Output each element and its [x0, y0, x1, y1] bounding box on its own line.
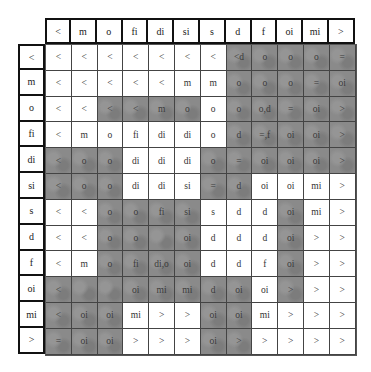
- table-cell: >: [304, 303, 330, 329]
- table-cell: oi: [304, 122, 330, 148]
- table-cell: oi: [278, 251, 304, 277]
- column-header-row: <mofidisisdfoimi>: [45, 18, 355, 44]
- table-cell: m: [72, 122, 98, 148]
- table-cell: mi: [252, 303, 278, 329]
- table-cell: o: [227, 71, 253, 97]
- table-cell: <: [46, 251, 72, 277]
- table-cell: >: [330, 329, 356, 355]
- row-header: o: [18, 96, 45, 122]
- table-cell: si: [175, 174, 201, 200]
- table-cell: =: [46, 329, 72, 355]
- row-header: f: [18, 251, 45, 277]
- table-cell: o,d: [252, 97, 278, 123]
- table-cell: <: [46, 174, 72, 200]
- table-cell: o: [98, 122, 124, 148]
- table-cell: o: [201, 97, 227, 123]
- table-cell: >: [149, 303, 175, 329]
- column-header: s: [200, 18, 226, 44]
- table-cell: fi: [123, 251, 149, 277]
- table-cell: o: [98, 226, 124, 252]
- table-cell: o: [98, 174, 124, 200]
- column-header: >: [329, 18, 355, 44]
- table-cell: =: [227, 148, 253, 174]
- table-cell: =,f: [252, 122, 278, 148]
- table-cell: <: [46, 200, 72, 226]
- row-header: si: [18, 173, 45, 199]
- table-row: <oodidisi=doioimi>: [46, 174, 356, 200]
- table-row: <oimimidoioi>>>: [46, 277, 356, 303]
- table-cell: <: [98, 71, 124, 97]
- table-cell: <: [46, 226, 72, 252]
- table-cell: <: [98, 97, 124, 123]
- table-cell: oi: [278, 148, 304, 174]
- row-header: m: [18, 70, 45, 96]
- table-cell: <: [46, 45, 72, 71]
- table-cell: m: [72, 251, 98, 277]
- table-cell: oi: [227, 303, 253, 329]
- table-cell: fi: [123, 122, 149, 148]
- column-header: si: [174, 18, 200, 44]
- table-row: <<oofisisddoimi>: [46, 200, 356, 226]
- table-cell: di: [175, 122, 201, 148]
- table-row: <oioimi>>oioimi>>>: [46, 303, 356, 329]
- table-cell: >: [123, 329, 149, 355]
- table-cell: mi: [175, 277, 201, 303]
- table-cell: <: [46, 148, 72, 174]
- table-cell: <: [72, 97, 98, 123]
- table-cell: m: [149, 97, 175, 123]
- table-cell: oi: [201, 329, 227, 355]
- row-header: d: [18, 225, 45, 251]
- table-cell: oi: [304, 148, 330, 174]
- table-cell: >: [330, 277, 356, 303]
- table-cell: f: [252, 251, 278, 277]
- table-row: <mofidi,ooiddfoi>>: [46, 251, 356, 277]
- table-cell: <: [175, 45, 201, 71]
- table-cell: o: [98, 251, 124, 277]
- table-cell: di: [149, 122, 175, 148]
- table-cell: <: [149, 45, 175, 71]
- table-cell: <: [201, 45, 227, 71]
- table-row: <<<<moooo,d=oi>: [46, 97, 356, 123]
- table-cell: >: [175, 329, 201, 355]
- table-cell: oi: [98, 303, 124, 329]
- table-cell: >: [330, 122, 356, 148]
- table-cell: <: [72, 71, 98, 97]
- table-cell: <: [72, 200, 98, 226]
- table-cell: oi: [252, 174, 278, 200]
- table-cell: d: [227, 226, 253, 252]
- table-cell: >: [304, 251, 330, 277]
- table-cell: m: [175, 71, 201, 97]
- table-cell: di: [123, 148, 149, 174]
- table-cell: >: [330, 251, 356, 277]
- table-cell: >: [330, 148, 356, 174]
- table-cell: d: [227, 174, 253, 200]
- table-cell: d: [252, 200, 278, 226]
- composition-table: <<<<<<<<dooo=<<<<<mmooo=oi<<<<moooo,d=oi…: [45, 44, 357, 356]
- table-cell: >: [304, 277, 330, 303]
- table-cell: o: [98, 200, 124, 226]
- table-cell: o: [175, 97, 201, 123]
- column-header: mi: [303, 18, 329, 44]
- table-cell: o: [278, 45, 304, 71]
- table-cell: <: [46, 122, 72, 148]
- table-cell: >: [304, 226, 330, 252]
- table-cell: >: [252, 329, 278, 355]
- table-cell: di: [149, 174, 175, 200]
- table-cell: o: [123, 200, 149, 226]
- table-cell: di: [175, 148, 201, 174]
- table-cell: d: [227, 200, 253, 226]
- table-cell: oi: [278, 200, 304, 226]
- table-cell: >: [278, 277, 304, 303]
- table-cell: o: [304, 45, 330, 71]
- table-cell: <: [46, 277, 72, 303]
- table-cell: o: [227, 97, 253, 123]
- table-cell: mi: [149, 277, 175, 303]
- table-cell: o: [201, 122, 227, 148]
- table-cell: =: [278, 97, 304, 123]
- table-cell: <: [46, 71, 72, 97]
- table-row: <<<<<<<<dooo=: [46, 45, 356, 71]
- table-cell: >: [149, 329, 175, 355]
- table-cell: oi: [278, 122, 304, 148]
- table-cell: <: [123, 97, 149, 123]
- table-cell: >: [304, 329, 330, 355]
